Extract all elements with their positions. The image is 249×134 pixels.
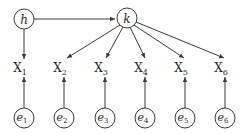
node-h-label: h [20, 13, 28, 27]
edge-k-x2 [67, 25, 120, 58]
node-e2: e2 [54, 108, 74, 128]
node-e4: e4 [135, 108, 155, 128]
node-x4: X4 [134, 61, 148, 77]
node-k: k [117, 8, 137, 28]
error-nodes: e1 e2 e3 e4 e5 e6 [14, 108, 235, 128]
node-x3: X3 [94, 61, 108, 77]
edge-k-x6 [136, 22, 224, 58]
edge-k-x5 [134, 25, 184, 58]
node-e6: e6 [215, 108, 235, 128]
node-e5: e5 [175, 108, 195, 128]
edge-k-x4 [130, 27, 145, 58]
causal-diagram: h k X1 X2 X3 X4 X5 X6 e1 e2 e3 e4 [0, 0, 249, 134]
node-k-label: k [123, 12, 130, 26]
observed-nodes: X1 X2 X3 X4 X5 X6 [13, 61, 228, 77]
node-x5: X5 [174, 61, 188, 77]
node-x1: X1 [13, 61, 27, 77]
node-x2: X2 [53, 61, 67, 77]
node-x6: X6 [214, 61, 228, 77]
node-e1: e1 [14, 108, 34, 128]
node-h: h [14, 9, 34, 29]
node-e3: e3 [95, 108, 115, 128]
